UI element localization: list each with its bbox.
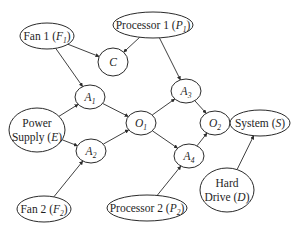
node-s[interactable]: System (S) <box>230 110 290 136</box>
nodes-layer: Fan 1 (F1)Processor 1 (P1)CA1PowerSupply… <box>9 12 290 222</box>
edge-e-to-a1 <box>59 104 78 116</box>
node-label: Drive (D) <box>204 191 249 204</box>
edge-o1-to-a3 <box>152 99 175 115</box>
node-d[interactable]: HardDrive (D) <box>200 168 254 212</box>
edge-d-to-s <box>237 136 254 170</box>
edge-o1-to-a4 <box>152 131 177 148</box>
edge-e-to-a2 <box>62 140 77 146</box>
node-p2[interactable]: Processor 2 (P2) <box>107 195 187 221</box>
node-label: C <box>109 56 117 68</box>
edge-p2-to-a4 <box>157 166 181 195</box>
edge-a2-to-o1 <box>103 130 128 144</box>
edge-a3-to-o2 <box>195 101 206 114</box>
edge-f1-to-c <box>68 44 99 56</box>
edge-p1-to-c <box>124 37 140 52</box>
edge-a4-to-o2 <box>197 133 207 146</box>
node-f2[interactable]: Fan 2 (F2) <box>17 196 71 222</box>
edge-f1-to-a1 <box>56 48 83 86</box>
node-e[interactable]: PowerSupply (E) <box>9 108 65 152</box>
bayesian-network-diagram: Fan 1 (F1)Processor 1 (P1)CA1PowerSupply… <box>0 0 297 230</box>
node-ellipse <box>200 168 254 212</box>
node-o2[interactable]: O2 <box>200 111 230 135</box>
edge-f2-to-a2 <box>54 161 83 197</box>
node-f1[interactable]: Fan 1 (F1) <box>20 23 74 49</box>
node-a4[interactable]: A4 <box>174 144 204 168</box>
node-label: Supply (E) <box>12 131 62 144</box>
node-label-line1: Power <box>22 117 52 129</box>
node-c[interactable]: C <box>98 48 128 76</box>
node-ellipse <box>9 108 65 152</box>
edge-a1-to-o1 <box>103 103 129 116</box>
edge-p1-to-a3 <box>159 38 180 80</box>
node-label-line1: Hard <box>216 177 239 189</box>
node-a2[interactable]: A2 <box>76 139 106 163</box>
node-p1[interactable]: Processor 1 (P1) <box>113 12 193 38</box>
node-label: System (S) <box>235 117 285 130</box>
node-a3[interactable]: A3 <box>171 79 201 103</box>
node-a1[interactable]: A1 <box>75 85 105 109</box>
node-o1[interactable]: O1 <box>126 111 156 135</box>
